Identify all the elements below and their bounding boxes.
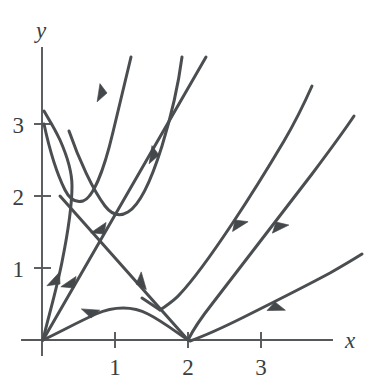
trajectory-curve-4-diagonal-down xyxy=(60,196,188,340)
x-axis-label: x xyxy=(344,328,356,353)
y-tick-label-2: 2 xyxy=(13,185,25,210)
trajectories-group xyxy=(43,57,362,341)
trajectory-curve-2-separatrix-left xyxy=(43,111,72,340)
y-axis-label: y xyxy=(34,18,47,43)
arrowhead-curve-9 xyxy=(265,300,285,318)
x-tick-label-3: 3 xyxy=(255,355,267,380)
x-tick-label-2: 2 xyxy=(182,355,194,380)
phase-portrait-figure: 1 2 3 1 2 3 x y xyxy=(0,0,381,385)
y-tick-labels: 1 2 3 xyxy=(13,113,25,282)
y-tick-label-1: 1 xyxy=(13,257,25,282)
trajectory-curve-1-from-y3 xyxy=(44,57,131,202)
y-tick-label-3: 3 xyxy=(13,113,25,138)
arrowhead-curve-1 xyxy=(92,82,108,101)
plot-canvas: 1 2 3 1 2 3 x y xyxy=(0,0,381,385)
x-tick-label-1: 1 xyxy=(109,355,121,380)
trajectory-curve-5-diagonal-up xyxy=(43,57,206,340)
x-tick-labels: 1 2 3 xyxy=(109,355,267,380)
trajectory-curve-7-vertex-at-1p62 xyxy=(160,86,312,310)
arrowhead-curve-6 xyxy=(81,303,101,320)
